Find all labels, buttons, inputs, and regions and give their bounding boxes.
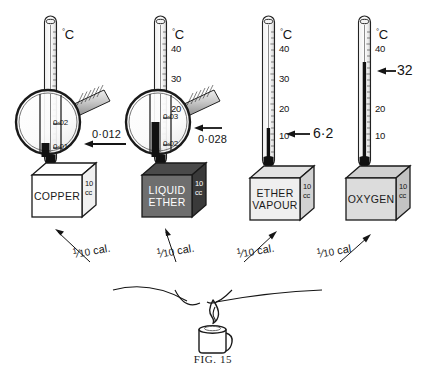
callout-arrow-liquid-ether — [194, 125, 222, 132]
box-label-ether-vapour: ETHERVAPOUR — [250, 187, 300, 211]
box-volume-unit-ether-vapour: cc — [303, 192, 310, 200]
thermometer-oxygen — [359, 16, 371, 166]
box-volume-unit-oxygen: cc — [399, 192, 406, 200]
box-volume-unit-liquid-ether: cc — [195, 189, 202, 197]
unit-letter-copper: C — [65, 27, 74, 42]
figure-caption: FIG. 15 — [0, 353, 426, 365]
heat-numerator-oxygen: 1 — [316, 246, 322, 256]
callout-value-copper: 0·012 — [92, 129, 121, 140]
box-volume-value-copper: 10 — [85, 180, 93, 188]
unit-letter-oxygen: C — [379, 27, 388, 42]
tick-label-ether-vapour-20: 20 — [279, 104, 289, 114]
thermometer-reading-ether-vapour: 6·2 — [313, 126, 333, 140]
tick-label-ether-vapour-10: 10 — [279, 131, 289, 141]
station-liquid-ether — [126, 16, 222, 305]
thermometer-reading-oxygen: 32 — [397, 63, 413, 77]
box-volume-unit-copper: cc — [85, 189, 92, 197]
tick-label-oxygen-40: 40 — [375, 44, 385, 54]
tick-label-liquid-ether-40: 40 — [171, 44, 181, 54]
heat-numerator-ether-vapour: 1 — [236, 246, 242, 256]
thermometer-unit-copper: °C — [62, 28, 74, 41]
box-label-ether-vapour-line2: VAPOUR — [252, 199, 297, 211]
tick-label-oxygen-10: 10 — [375, 131, 385, 141]
thermometer-ether-vapour — [263, 16, 275, 166]
heat-unit-oxygen: cal — [336, 242, 352, 256]
magnifier-upper-gradation-liquid-ether: 0·03 — [163, 113, 178, 121]
box-volume-value-ether-vapour: 10 — [303, 183, 311, 191]
tick-label-ether-vapour-30: 30 — [279, 74, 289, 84]
box-label-liquid-ether-line1: LIQUID — [149, 184, 186, 196]
thermometer-unit-liquid-ether: °C — [172, 28, 184, 41]
box-label-liquid-ether: LIQUIDETHER — [142, 184, 192, 208]
unit-letter-ether-vapour: C — [283, 27, 292, 42]
heat-arrow-copper — [55, 229, 187, 301]
heat-denominator-copper: 10 — [78, 246, 91, 259]
heat-denominator-liquid-ether: 10 — [162, 246, 175, 259]
unit-letter-liquid-ether: C — [175, 27, 184, 42]
heat-numerator-copper: 1 — [72, 246, 78, 256]
thermometer-unit-oxygen: °C — [376, 28, 388, 41]
box-label-ether-vapour-line1: ETHER — [256, 187, 293, 199]
reading-arrow-ether-vapour — [286, 131, 310, 138]
spirit-burner — [199, 300, 232, 353]
callout-value-liquid-ether: 0·028 — [198, 134, 227, 145]
heat-denominator-ether-vapour: 10 — [242, 246, 255, 259]
box-label-oxygen: OXYGEN — [344, 193, 398, 205]
station-oxygen — [216, 16, 410, 302]
box-label-copper: COPPER — [32, 190, 82, 202]
reading-arrow-oxygen — [377, 68, 396, 75]
box-label-liquid-ether-line2: ETHER — [148, 196, 185, 208]
callout-arrow-copper — [84, 141, 126, 148]
box-volume-value-oxygen: 10 — [399, 183, 407, 191]
heat-numerator-liquid-ether: 1 — [156, 246, 162, 256]
figure-artwork — [0, 0, 426, 376]
box-volume-value-liquid-ether: 10 — [195, 180, 203, 188]
figure-15-diagram: °C 0·02 0·01 0·012 COPPER 10 cc 1⁄10 cal… — [0, 0, 426, 376]
thermometer-unit-ether-vapour: °C — [280, 28, 292, 41]
magnifier-lower-gradation-liquid-ether: 0·02 — [163, 140, 178, 148]
tick-label-ether-vapour-40: 40 — [279, 44, 289, 54]
magnifier-upper-gradation-copper: 0·02 — [53, 119, 68, 127]
station-ether-vapour — [207, 16, 314, 303]
tick-label-liquid-ether-30: 30 — [171, 74, 181, 84]
heat-denominator-oxygen: 10 — [322, 246, 335, 259]
flame-icon — [210, 300, 219, 324]
tick-label-oxygen-20: 20 — [375, 104, 385, 114]
magnifier-lower-gradation-copper: 0·01 — [53, 143, 68, 151]
